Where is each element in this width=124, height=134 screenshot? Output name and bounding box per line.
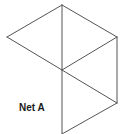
- edge-top-left: [7, 5, 62, 37]
- net-label: Net A: [19, 102, 45, 114]
- edge-right-center: [62, 37, 117, 70]
- edge-top-right: [62, 5, 117, 37]
- edge-center-lower_right: [62, 70, 117, 103]
- edge-left-center: [7, 37, 62, 70]
- edge-bottom-lower_right: [62, 103, 117, 134]
